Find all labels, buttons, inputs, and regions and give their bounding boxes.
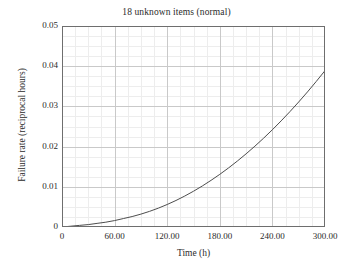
y-axis-tick-label: 0.02 (18, 141, 58, 151)
y-axis-tick-label: 0.03 (18, 100, 58, 110)
x-axis-title: Time (h) (62, 248, 325, 258)
x-axis-tick-label: 0 (32, 231, 92, 241)
x-axis-tick-label: 120.00 (137, 231, 197, 241)
y-axis-tick-label: 0.05 (18, 20, 58, 30)
x-axis-tick-labels: 060.00120.00180.00240.00300.00 (0, 231, 353, 247)
y-axis-tick-labels: 00.010.020.030.040.05 (12, 0, 58, 270)
y-axis-tick-label: 0.01 (18, 181, 58, 191)
minor-gridlines (62, 26, 325, 227)
x-axis-tick-label: 300.00 (295, 231, 353, 241)
x-axis-tick-label: 180.00 (190, 231, 250, 241)
plot-svg (62, 26, 325, 227)
y-axis-tick-label: 0.04 (18, 60, 58, 70)
plot-area (62, 26, 325, 227)
y-axis-tick-label: 0 (18, 221, 58, 231)
x-axis-tick-label: 240.00 (242, 231, 302, 241)
chart-figure: 18 unknown items (normal) Failure rate (… (0, 0, 353, 270)
x-axis-tick-label: 60.00 (85, 231, 145, 241)
